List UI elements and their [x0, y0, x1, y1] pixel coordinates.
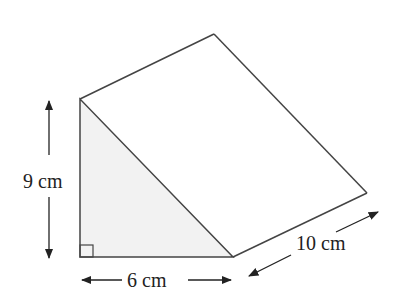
- length-arrow-up: [336, 212, 378, 232]
- length-label: 10 cm: [296, 232, 346, 254]
- height-label: 9 cm: [23, 170, 63, 192]
- back-slant-edge: [214, 34, 367, 193]
- front-triangle-face: [80, 99, 233, 257]
- prism-diagram: 9 cm 6 cm 10 cm: [0, 0, 395, 307]
- length-arrow-down: [249, 255, 291, 276]
- top-edge: [80, 34, 214, 99]
- base-label: 6 cm: [127, 269, 167, 291]
